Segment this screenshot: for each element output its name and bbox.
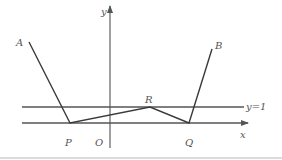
line-label-y-equals-1: y=1	[245, 101, 266, 112]
point-label-Q: Q	[185, 137, 193, 148]
y-axis-label: y	[100, 6, 107, 17]
path-APRQB	[29, 42, 212, 123]
point-label-P: P	[64, 137, 72, 148]
geometry-diagram: A B R P O Q y x y=1	[0, 0, 282, 160]
point-label-B: B	[214, 40, 222, 51]
x-axis-label: x	[240, 129, 246, 140]
point-label-R: R	[144, 94, 153, 105]
point-label-A: A	[15, 37, 23, 48]
bottom-divider	[0, 157, 282, 159]
origin-label: O	[95, 137, 103, 148]
